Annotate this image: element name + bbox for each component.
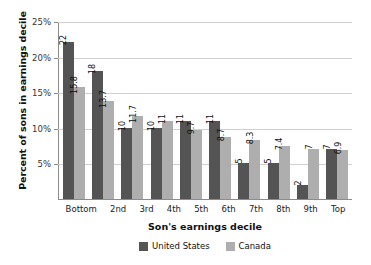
bar[interactable]: 15.8 [74, 87, 85, 199]
x-axis-line [58, 199, 352, 200]
bar-value-label: 11 [158, 114, 167, 124]
bar-value-label: 10 [147, 121, 156, 131]
bar-value-label: 2 [294, 180, 303, 185]
x-axis-title: Son's earnings decile [58, 221, 352, 232]
bar-value-label: 6.9 [334, 142, 343, 155]
bar[interactable]: 10 [151, 128, 162, 199]
bar-value-label: 11 [176, 114, 185, 124]
y-axis-tick [54, 129, 58, 130]
bar-groups: 2215.81813.71011.71011119.7118.758.357.4… [59, 22, 352, 199]
bar[interactable]: 7 [326, 149, 337, 199]
y-axis-title: Percent of sons in earnings decile [17, 1, 28, 201]
bar-value-label: 7 [323, 145, 332, 150]
x-axis-category-label: 6th [222, 204, 236, 214]
bar-group: 58.3 [238, 22, 260, 199]
y-axis-tick [54, 58, 58, 59]
y-axis-tick-label: 25% [32, 17, 51, 27]
legend-swatch-icon [226, 242, 235, 251]
bar[interactable]: 8.3 [249, 140, 260, 199]
bar-value-label: 18 [88, 64, 97, 74]
bar-group: 57.4 [268, 22, 290, 199]
bar-value-label: 5 [264, 159, 273, 164]
bar-value-label: 7 [305, 145, 314, 150]
bar[interactable]: 6.9 [337, 150, 348, 199]
bar-group: 27 [297, 22, 319, 199]
bar-value-label: 22 [59, 35, 68, 45]
bar-group: 76.9 [326, 22, 348, 199]
y-axis-tick-label: 20% [32, 53, 51, 63]
bar[interactable]: 10 [121, 128, 132, 199]
y-axis-tick-label: 15% [32, 88, 51, 98]
x-axis-category-label: 7th [249, 204, 263, 214]
bar[interactable]: 11 [162, 121, 173, 199]
x-axis-category-label: 5th [194, 204, 208, 214]
bar[interactable]: 5 [238, 163, 249, 199]
y-axis-tick-label: 5% [38, 159, 52, 169]
bar-chart: Percent of sons in earnings decile 5%10%… [0, 0, 371, 265]
y-axis-tick [54, 22, 58, 23]
bar[interactable]: 7.4 [279, 146, 290, 199]
y-axis-tick-label: 10% [32, 124, 51, 134]
bar-group: 1011.7 [121, 22, 143, 199]
bar-value-label: 5 [235, 159, 244, 164]
bar-value-label: 8.7 [217, 129, 226, 142]
legend-item[interactable]: Canada [226, 241, 271, 251]
bar-group: 2215.8 [63, 22, 85, 199]
bar-value-label: 10 [118, 121, 127, 131]
bar[interactable]: 8.7 [220, 137, 231, 199]
x-axis-category-label: Top [331, 204, 345, 214]
bar[interactable]: 11.7 [132, 116, 143, 199]
x-axis-tick-labels: Bottom2nd3rd4th5th6th7th8th9thTop [59, 204, 352, 214]
bar[interactable]: 13.7 [103, 101, 114, 199]
bar-group: 118.7 [209, 22, 231, 199]
bar[interactable]: 5 [268, 163, 279, 199]
bar-value-label: 9.7 [187, 122, 196, 135]
legend-label: Canada [239, 241, 271, 251]
bar-value-label: 11.7 [129, 105, 138, 123]
bar-value-label: 13.7 [99, 91, 108, 109]
x-axis-category-label: 9th [304, 204, 318, 214]
x-axis-category-label: 3rd [139, 204, 153, 214]
bar-value-label: 8.3 [246, 132, 255, 145]
legend-label: United States [152, 241, 210, 251]
bar[interactable]: 2 [297, 185, 308, 199]
bar[interactable]: 7 [308, 149, 319, 199]
legend-item[interactable]: United States [139, 241, 210, 251]
bar-group: 119.7 [180, 22, 202, 199]
x-axis-category-label: 8th [276, 204, 290, 214]
x-axis-category-label: 4th [167, 204, 181, 214]
bar-value-label: 11 [206, 114, 215, 124]
bar-value-label: 15.8 [70, 76, 79, 94]
y-axis-tick [54, 164, 58, 165]
bar-group: 1813.7 [92, 22, 114, 199]
plot-area: 5%10%15%20%25% 2215.81813.71011.71011119… [58, 22, 352, 200]
bar-group: 1011 [151, 22, 173, 199]
x-axis-category-label: 2nd [110, 204, 126, 214]
bar[interactable]: 22 [63, 42, 74, 199]
chart-legend: United StatesCanada [58, 241, 352, 251]
bar[interactable]: 9.7 [191, 130, 202, 199]
legend-swatch-icon [139, 242, 148, 251]
bar-value-label: 7.4 [275, 138, 284, 151]
x-axis-category-label: Bottom [66, 204, 97, 214]
y-axis-tick [54, 93, 58, 94]
